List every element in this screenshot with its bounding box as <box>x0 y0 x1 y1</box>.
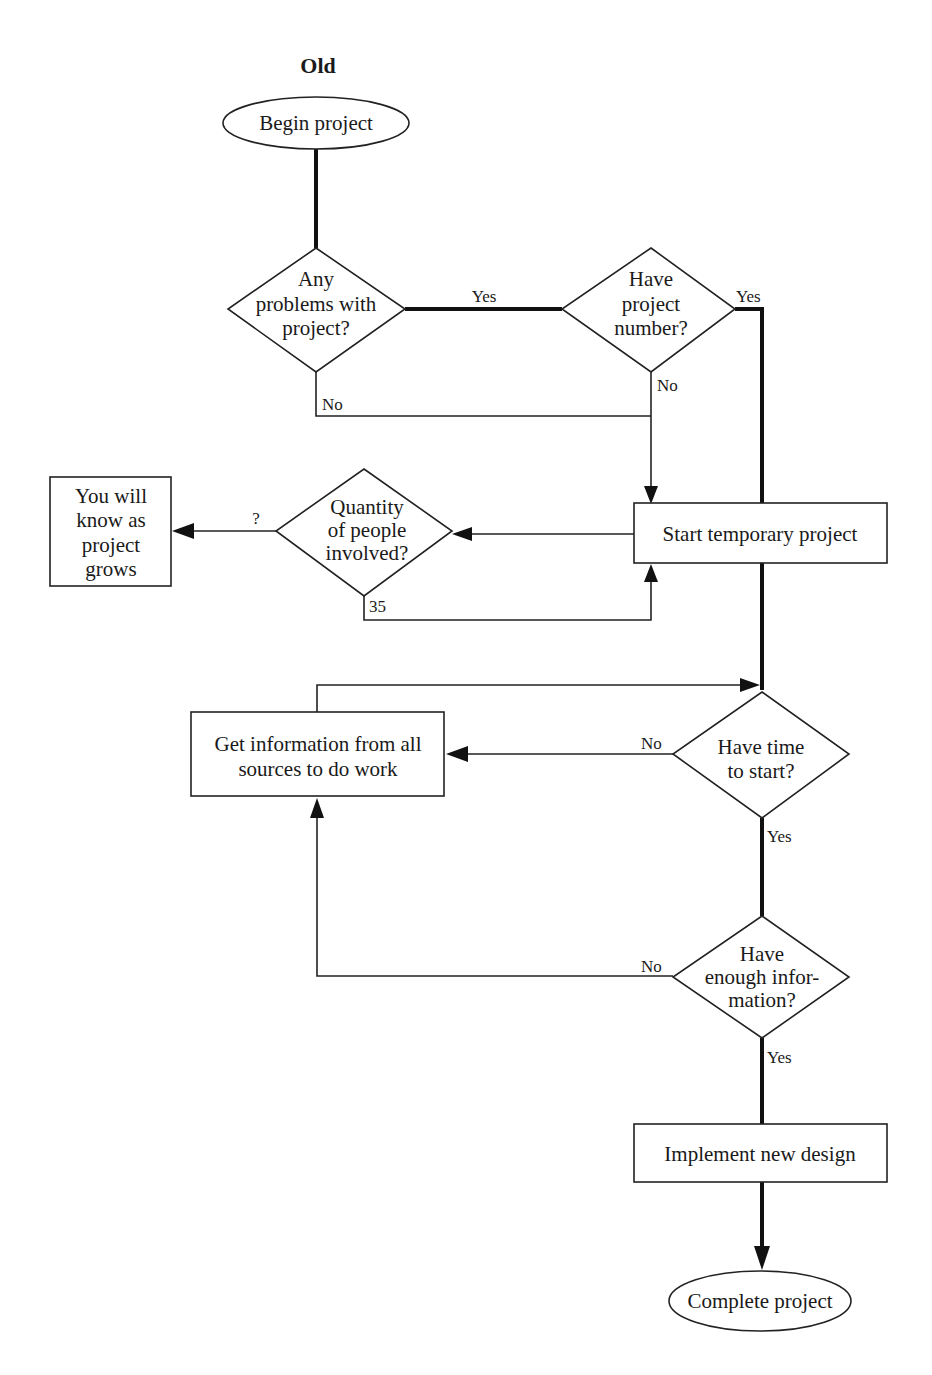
node-label-line: project <box>82 533 140 557</box>
node-label-line: Get information from all <box>214 732 421 756</box>
node-label-line: sources to do work <box>238 757 398 781</box>
node-label: Begin project <box>259 111 373 135</box>
edge-problems-no <box>316 372 651 416</box>
edge-label-no: No <box>322 395 343 414</box>
node-label-line: know as <box>76 508 145 532</box>
node-label-line: project? <box>282 316 350 340</box>
node-label-line: Have time <box>718 735 805 759</box>
arrow-left-icon <box>452 527 472 541</box>
arrow-up-icon <box>644 564 658 582</box>
node-get-information: Get information from all sources to do w… <box>191 712 444 796</box>
node-label-line: involved? <box>326 541 409 565</box>
arrow-up-icon <box>310 798 324 818</box>
node-problems-decision: Any problems with project? <box>228 248 405 372</box>
node-label-line: project <box>622 292 680 316</box>
node-label-line: Have <box>629 267 673 291</box>
node-label: Complete project <box>687 1289 832 1313</box>
node-implement-new-design: Implement new design <box>634 1124 887 1182</box>
node-label-line: Any <box>298 267 335 291</box>
node-label-line: You will <box>75 484 147 508</box>
node-label-line: of people <box>328 518 407 542</box>
node-complete-project: Complete project <box>669 1271 851 1331</box>
node-label-line: number? <box>614 316 687 340</box>
edge-label-yes: Yes <box>767 1048 792 1067</box>
node-time-to-start-decision: Have time to start? <box>673 692 849 818</box>
arrow-down-icon <box>754 1246 770 1270</box>
node-label-line: enough infor- <box>705 965 819 989</box>
edge-label-35: 35 <box>369 597 386 616</box>
node-begin-project: Begin project <box>223 97 409 149</box>
edge-labels: Yes No Yes No ? 35 No Yes No Yes <box>252 287 792 1067</box>
edge-getinfo-return <box>317 685 742 712</box>
node-enough-information-decision: Have enough infor- mation? <box>673 916 849 1038</box>
node-quantity-decision: Quantity of people involved? <box>276 469 452 596</box>
edge-label-yes: Yes <box>767 827 792 846</box>
arrow-down-icon <box>644 486 658 504</box>
flowchart: Old <box>0 0 932 1375</box>
node-label-line: mation? <box>728 988 796 1012</box>
edge-label-unknown: ? <box>252 509 260 528</box>
edge-label-yes: Yes <box>736 287 761 306</box>
edge-number-yes <box>735 309 762 690</box>
node-label-line: to start? <box>727 759 794 783</box>
node-label-line: Have <box>740 942 784 966</box>
edge-info-no <box>317 818 673 976</box>
node-project-number-decision: Have project number? <box>562 248 735 372</box>
node-know-as-project-grows: You will know as project grows <box>50 477 171 586</box>
node-label: Implement new design <box>664 1142 856 1166</box>
arrow-right-icon <box>740 678 760 692</box>
node-start-temporary-project: Start temporary project <box>634 503 887 563</box>
edge-label-yes: Yes <box>472 287 497 306</box>
node-label-line: grows <box>85 557 136 581</box>
edge-label-no: No <box>657 376 678 395</box>
node-label-line: Quantity <box>330 495 404 519</box>
arrow-left-icon <box>172 523 194 539</box>
arrow-left-icon <box>446 746 468 762</box>
node-label: Start temporary project <box>663 522 858 546</box>
edge-quantity-35 <box>364 582 651 620</box>
node-label-line: problems with <box>256 292 377 316</box>
edge-label-no: No <box>641 734 662 753</box>
edge-label-no: No <box>641 957 662 976</box>
diagram-title: Old <box>300 53 335 78</box>
